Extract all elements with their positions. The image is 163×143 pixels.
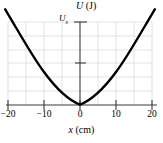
x-tick-label--20: −20 bbox=[0, 109, 20, 119]
potential-energy-figure: U (J) Us −20 −10 0 10 20 x (cm) bbox=[0, 0, 163, 143]
us-annotation: Us bbox=[59, 13, 68, 25]
x-tick-label-10: 10 bbox=[105, 109, 127, 119]
y-axis-title-unit: (J) bbox=[86, 0, 97, 11]
x-tick-label-20: 20 bbox=[141, 109, 163, 119]
x-axis-title: x (cm) bbox=[0, 124, 163, 135]
x-tick-label-0: 0 bbox=[70, 109, 90, 119]
us-annotation-subscript: s bbox=[66, 19, 68, 25]
plot-canvas bbox=[0, 0, 163, 143]
x-tick-label--10: −10 bbox=[32, 109, 56, 119]
x-axis-title-unit: (cm) bbox=[76, 124, 95, 135]
y-axis-title: U (J) bbox=[76, 0, 96, 11]
